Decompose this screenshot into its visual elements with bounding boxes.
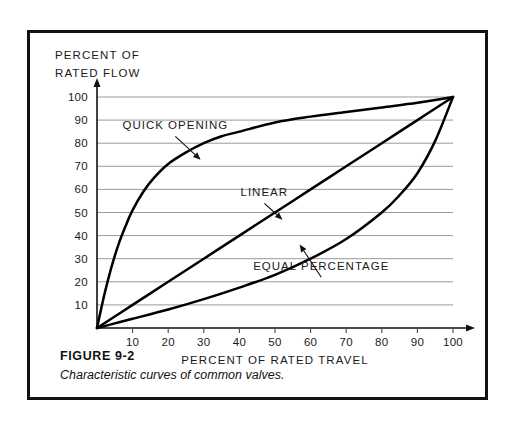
x-tick-label-50: 50 bbox=[268, 336, 281, 348]
leader-line-linear bbox=[264, 203, 277, 214]
y-tick-label-100: 100 bbox=[68, 91, 88, 103]
y-tick-label-20: 20 bbox=[75, 276, 88, 288]
chart-area: 1020304050607080901001020304050607080901… bbox=[30, 33, 491, 403]
curve-label-linear: LINEAR bbox=[241, 186, 289, 198]
y-tick-label-10: 10 bbox=[75, 299, 88, 311]
x-tick-label-70: 70 bbox=[339, 336, 352, 348]
y-tick-label-80: 80 bbox=[75, 137, 88, 149]
x-tick-label-10: 10 bbox=[126, 336, 139, 348]
curve-label-equal-percentage: EQUAL PERCENTAGE bbox=[253, 260, 389, 272]
x-tick-label-30: 30 bbox=[197, 336, 210, 348]
y-axis-title-line2: RATED FLOW bbox=[55, 67, 141, 79]
figure-frame: 1020304050607080901001020304050607080901… bbox=[27, 30, 488, 400]
y-tick-label-50: 50 bbox=[75, 207, 88, 219]
y-tick-label-70: 70 bbox=[75, 160, 88, 172]
y-tick-label-40: 40 bbox=[75, 230, 88, 242]
caption-title: FIGURE 9-2 bbox=[60, 349, 460, 365]
y-tick-label-90: 90 bbox=[75, 114, 88, 126]
caption-text: Characteristic curves of common valves. bbox=[60, 367, 460, 383]
curve-label-quick-opening: QUICK OPENING bbox=[122, 119, 228, 131]
x-tick-label-80: 80 bbox=[375, 336, 388, 348]
x-tick-label-60: 60 bbox=[304, 336, 317, 348]
x-tick-label-40: 40 bbox=[233, 336, 246, 348]
y-tick-label-60: 60 bbox=[75, 183, 88, 195]
y-tick-labels: 102030405060708090100 bbox=[68, 91, 88, 311]
x-tick-label-100: 100 bbox=[443, 336, 463, 348]
x-tick-label-20: 20 bbox=[161, 336, 174, 348]
x-tick-label-90: 90 bbox=[411, 336, 424, 348]
figure-caption: FIGURE 9-2 Characteristic curves of comm… bbox=[60, 349, 460, 383]
x-axis-arrow bbox=[466, 325, 475, 332]
y-axis-title-line1: PERCENT OF bbox=[55, 49, 140, 61]
leader-arrow-equal-percentage bbox=[300, 244, 307, 252]
y-axis-arrow bbox=[94, 78, 101, 87]
figure-root: 1020304050607080901001020304050607080901… bbox=[0, 0, 515, 423]
x-tick-labels: 102030405060708090100 bbox=[126, 328, 463, 348]
valve-characteristic-chart: 1020304050607080901001020304050607080901… bbox=[30, 33, 491, 403]
y-tick-label-30: 30 bbox=[75, 253, 88, 265]
